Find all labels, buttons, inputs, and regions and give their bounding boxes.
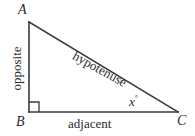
side-label-opposite: opposite (10, 41, 23, 97)
vertex-label-c: C (177, 114, 186, 128)
right-triangle-figure: A B C opposite hypotenuse adjacent x° (0, 0, 195, 136)
vertex-label-a: A (18, 3, 27, 17)
angle-label-x-degrees: x° (129, 95, 138, 108)
degree-symbol-icon: ° (135, 94, 138, 103)
side-label-adjacent: adjacent (68, 117, 111, 130)
right-angle-marker-icon (29, 102, 39, 112)
vertex-label-b: B (16, 115, 25, 129)
